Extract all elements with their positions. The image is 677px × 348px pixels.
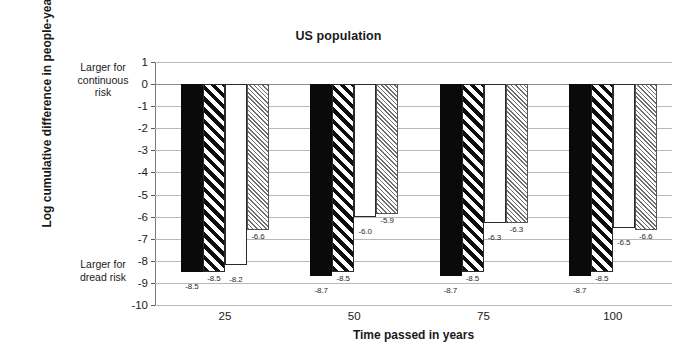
- annotation-bottom-line2: dread risk: [57, 271, 149, 284]
- bar-50-series-2: [332, 84, 354, 272]
- bar-75-series-4: [506, 84, 528, 223]
- bar-75-series-3: [484, 84, 506, 223]
- y-tick-mark: [151, 305, 155, 306]
- y-tick-label: 1: [142, 56, 148, 68]
- y-tick-label: -3: [138, 144, 148, 156]
- annotation-bottom-line1: Larger for: [57, 258, 149, 271]
- bar-75-series-2: [462, 84, 484, 272]
- y-tick-label: -1: [138, 100, 148, 112]
- bar-50-series-4: [376, 84, 398, 214]
- bar-25-series-1: [181, 84, 203, 272]
- bar-value-label: -6.6: [251, 232, 264, 241]
- bar-100-series-2: [591, 84, 613, 272]
- y-axis-line: [155, 62, 156, 306]
- bar-value-label: -8.7: [573, 286, 586, 295]
- bar-value-label: -5.9: [381, 216, 394, 225]
- bar-value-label: -8.5: [337, 274, 350, 283]
- y-tick-label: -8: [138, 255, 148, 267]
- x-tick-label-75: 75: [477, 310, 490, 322]
- y-tick-mark: [151, 84, 155, 85]
- bar-value-label: -8.5: [466, 274, 479, 283]
- x-tick-label-25: 25: [219, 310, 232, 322]
- y-tick-mark: [151, 128, 155, 129]
- bar-value-label: -6.3: [510, 225, 523, 234]
- annotation-continuous-risk: Larger for continuous risk: [57, 61, 149, 99]
- y-tick-mark: [151, 239, 155, 240]
- y-tick-mark: [151, 217, 155, 218]
- y-tick-label: -5: [138, 189, 148, 201]
- x-tick-label-100: 100: [603, 310, 622, 322]
- y-tick-label: -6: [138, 211, 148, 223]
- y-tick-mark: [151, 261, 155, 262]
- x-axis-title: Time passed in years: [155, 328, 672, 342]
- chart-title: US population: [0, 29, 677, 43]
- bar-100-series-4: [635, 84, 657, 230]
- bar-value-label: -8.5: [207, 274, 220, 283]
- bar-value-label: -8.7: [444, 286, 457, 295]
- y-tick-mark: [151, 150, 155, 151]
- y-tick-mark: [151, 172, 155, 173]
- bar-25-series-4: [247, 84, 269, 230]
- bar-value-label: -8.2: [229, 275, 242, 284]
- bar-25-series-3: [225, 84, 247, 265]
- bar-75-series-1: [440, 84, 462, 276]
- y-tick-mark: [151, 283, 155, 284]
- bar-100-series-3: [613, 84, 635, 228]
- y-axis-title: Log cumulative difference in people-year…: [40, 0, 55, 233]
- bar-50-series-1: [310, 84, 332, 276]
- bar-100-series-1: [569, 84, 591, 276]
- y-tick-label: -2: [138, 122, 148, 134]
- bar-value-label: -8.5: [185, 282, 198, 291]
- annotation-dread-risk: Larger for dread risk: [57, 258, 149, 283]
- bar-50-series-3: [354, 84, 376, 217]
- bar-value-label: -8.5: [595, 274, 608, 283]
- gridline--10: [155, 305, 672, 306]
- annotation-top-line2: continuous: [57, 74, 149, 87]
- annotation-top-line3: risk: [57, 86, 149, 99]
- y-tick-label: -9: [138, 277, 148, 289]
- plot-area: 10-1-2-3-4-5-6-7-8-9-10 -8.5-8.5-8.2-6.6…: [155, 62, 672, 305]
- y-tick-mark: [151, 195, 155, 196]
- y-tick-label: -7: [138, 233, 148, 245]
- bar-value-label: -6.6: [639, 232, 652, 241]
- bar-value-label: -6.0: [359, 227, 372, 236]
- bar-25-series-2: [203, 84, 225, 272]
- annotation-top-line1: Larger for: [57, 61, 149, 74]
- y-tick-label: -10: [131, 299, 148, 311]
- y-tick-mark: [151, 106, 155, 107]
- bar-value-label: -8.7: [315, 286, 328, 295]
- y-tick-mark: [151, 62, 155, 63]
- bar-value-label: -6.3: [488, 233, 501, 242]
- x-tick-label-50: 50: [348, 310, 361, 322]
- gridline-1: [155, 62, 672, 63]
- y-tick-label: -4: [138, 166, 148, 178]
- bar-value-label: -6.5: [617, 238, 630, 247]
- y-tick-label: 0: [142, 78, 148, 90]
